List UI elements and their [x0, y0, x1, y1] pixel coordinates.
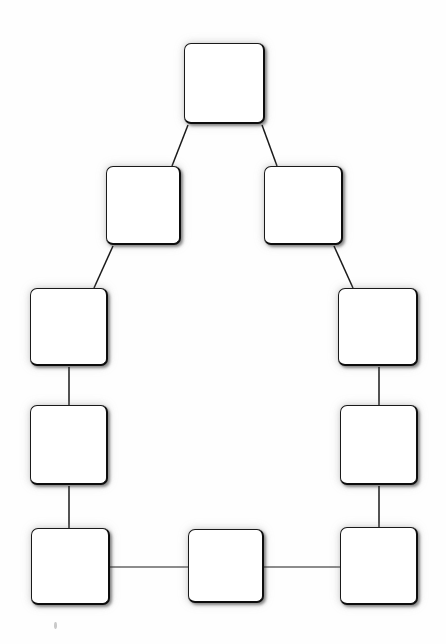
node-top[interactable]	[184, 43, 265, 124]
node-bottom-left-label	[67, 563, 73, 569]
node-bottom-right[interactable]	[340, 527, 418, 605]
node-row4-left-label	[66, 442, 72, 448]
node-row4-right-label	[376, 442, 382, 448]
node-bottom-middle[interactable]	[188, 529, 264, 603]
node-row2-left-label	[140, 202, 146, 208]
node-row3-right[interactable]	[338, 288, 418, 366]
node-top-label	[221, 80, 227, 86]
node-bottom-right-label	[376, 563, 382, 569]
node-row4-right[interactable]	[340, 405, 418, 485]
node-row3-left-label	[66, 324, 72, 330]
diagram-canvas	[0, 0, 446, 644]
node-row4-left[interactable]	[30, 405, 108, 485]
node-row2-right-label	[300, 202, 306, 208]
node-bottom-left[interactable]	[31, 528, 110, 605]
node-row3-left[interactable]	[30, 288, 108, 366]
node-row3-right-label	[375, 324, 381, 330]
node-bottom-middle-label	[223, 563, 229, 569]
node-row2-right[interactable]	[264, 166, 343, 245]
node-row2-left[interactable]	[106, 166, 181, 245]
node-layer	[0, 0, 446, 644]
